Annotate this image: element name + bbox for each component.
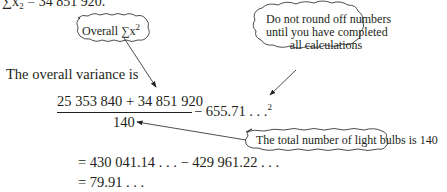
overall-sum-exponent: 2	[136, 22, 141, 32]
mean-exponent: 2	[267, 102, 272, 112]
step-2: = 79.91 . . .	[78, 174, 144, 191]
overall-sum-label: Overall ∑x	[82, 24, 136, 38]
variance-intro: The overall variance is	[6, 66, 138, 83]
rounding-note-callout: Do not round off numbers until you have …	[266, 13, 386, 52]
sum-x2-line: ∑x₂ = 34 851 920.	[2, 0, 105, 10]
fraction-numerator: 25 353 840 + 34 851 920	[57, 93, 203, 110]
minus-mean-squared: − 655.71 . . .2	[194, 102, 272, 120]
mean-value: − 655.71 . . .	[194, 103, 267, 119]
fraction-denominator: 140	[113, 114, 135, 131]
step-1: = 430 041.14 . . . − 429 961.22 . . .	[78, 154, 279, 171]
total-bulbs-callout: The total number of light bulbs is 140	[256, 134, 438, 147]
rounding-note-line-3: all calculations	[266, 39, 386, 52]
fraction-bar	[57, 112, 192, 113]
overall-sum-callout: Overall ∑x2	[82, 21, 140, 38]
